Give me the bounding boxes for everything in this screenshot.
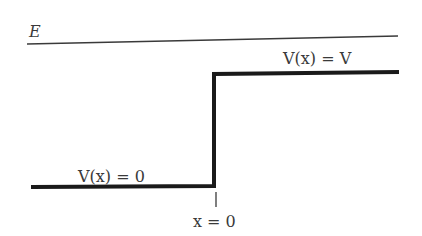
origin-label: x = 0 xyxy=(193,212,236,231)
region-right-label: V(x) = V xyxy=(282,49,352,68)
energy-label: E xyxy=(28,22,41,41)
energy-level-line xyxy=(27,36,398,44)
region-left-label: V(x) = 0 xyxy=(77,167,145,186)
potential-step-diagram: E V(x) = V V(x) = 0 x = 0 xyxy=(0,0,422,236)
